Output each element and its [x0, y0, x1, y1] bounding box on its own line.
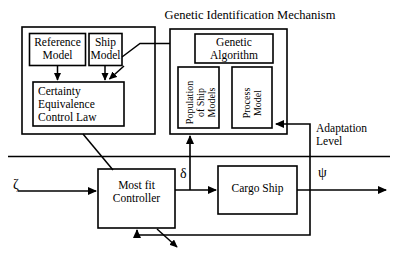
process-model-label: Process Model [241, 70, 263, 136]
psi-symbol-label: ψ [318, 165, 327, 181]
certainty-equivalence-control-law-label: Certainty Equivalence Control Law [38, 85, 120, 124]
ship-model-to-gim-connector [122, 44, 170, 58]
genetic-algorithm-label: Genetic Algorithm [195, 36, 273, 62]
block-diagram-canvas: Genetic Identification Mechanism Referen… [0, 0, 395, 268]
reference-model-label: Reference Model [30, 36, 86, 62]
cargo-ship-label: Cargo Ship [218, 182, 297, 195]
diagram-title: Genetic Identification Mechanism [160, 8, 340, 22]
adaptation-level-label: Adaptation Level [316, 122, 367, 148]
control-law-to-controller-connector [83, 134, 113, 170]
identification-to-control-law-arrow [110, 66, 125, 79]
delta-symbol-label: δ [180, 166, 187, 182]
zeta-symbol-label: ζ [13, 177, 19, 193]
controller-adaptation-stub-arrow [157, 229, 177, 247]
ship-model-label: Ship Model [89, 36, 122, 62]
most-fit-controller-label: Most fit Controller [98, 179, 175, 205]
population-of-ship-models-label: Population of Ship Models [183, 69, 216, 135]
